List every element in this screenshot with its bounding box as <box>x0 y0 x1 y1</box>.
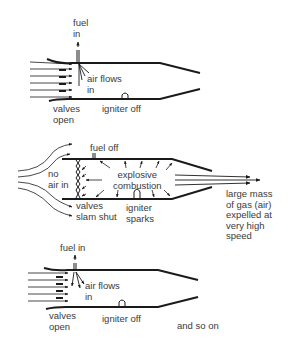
fuel-injector-icon <box>77 42 79 62</box>
label-igniter-off: igniter off <box>102 104 141 115</box>
label-valves-slam-shut: valves slam shut <box>76 201 117 222</box>
engine-tube <box>44 268 198 309</box>
label-valves-open: valves open <box>53 104 80 125</box>
label-fuel-in: fuel in <box>73 18 88 39</box>
label-fuel-off: fuel off <box>90 143 118 154</box>
label-air-flows-in: air flows in <box>87 74 122 95</box>
closed-valves-icon <box>76 160 80 198</box>
label-exhaust: large mass of gas (air) expelled at very… <box>226 189 272 242</box>
engine-tube <box>47 59 200 101</box>
valve-flaps-icon <box>59 70 66 91</box>
fuel-spray-icon <box>72 272 84 288</box>
label-valves-open: valves open <box>49 311 76 332</box>
label-air-flows-in: air flows in <box>85 281 120 302</box>
label-igniter-off: igniter off <box>102 314 141 325</box>
label-igniter-sparks: igniter sparks <box>126 203 154 224</box>
label-no-air-in: no air in <box>48 169 69 190</box>
fuel-injector-icon <box>74 255 76 270</box>
exhaust-arrows <box>175 175 260 185</box>
igniter-icon <box>119 300 125 307</box>
label-explosive-combustion: explosive combustion <box>113 170 162 191</box>
label-and-so-on: and so on <box>177 321 219 332</box>
pulse-jet-diagram: fuel in air flows in valves open igniter… <box>0 0 289 350</box>
label-fuel-in: fuel in <box>60 243 85 254</box>
backpressure-arrows <box>82 166 102 196</box>
